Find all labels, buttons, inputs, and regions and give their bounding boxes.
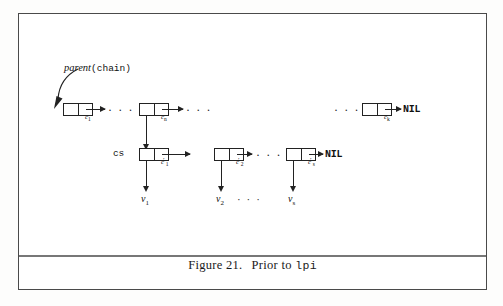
chain-node-ck-divider [377,104,378,115]
chain-ellipsis-3: · · · [334,103,360,118]
chain-arrow-c1-to-next [86,109,105,110]
caption-text: Prior to [252,258,292,272]
cs-node-cs-prime-divider [301,149,302,160]
parent-annotation-mono: (chain) [91,63,131,74]
cs-node-c2-prime-divider [229,149,230,160]
cs-node-c1-prime-label: c′1 [161,158,168,167]
cs-ellipsis-1: · · · [256,148,282,163]
value-label-v2: v2 [216,193,224,207]
chain-to-cs-down-arrow [146,116,147,145]
caption-code-lpi: lpi [295,259,317,272]
cs-node-c1-value-arrow [146,161,147,187]
cs-label: cs [113,148,124,159]
cs-arrow-c2-to-next [237,154,252,155]
cs-node-cs-prime-label: c′s [308,158,315,167]
figure-caption: Figure 21.Prior to lpi [19,258,486,273]
chain-arrow-cn-to-next [162,109,183,110]
cs-nil-terminator: NIL [325,149,342,160]
cs-node-c1-prime-divider [154,149,155,160]
caption-figure-number: Figure 21. [188,258,242,272]
chain-node-ck-label: ck [384,113,390,122]
value-label-v1: v1 [141,193,149,207]
chain-node-cn-divider [154,104,155,115]
cs-node-cs-value-arrow [293,161,294,187]
cs-node-c2-prime-label: c′2 [236,158,243,167]
cs-arrow-c1-to-next [162,154,190,155]
cs-arrow-cs-to-nil [309,154,323,155]
chain-arrow-ck-to-nil [385,109,401,110]
chain-ellipsis-1: · · · [108,103,134,118]
chain-ellipsis-2: · · · [186,103,212,118]
value-ellipsis-1: · · · [237,193,262,205]
caption-separator-rule [19,255,486,257]
chain-node-c1-label: c1 [85,113,91,122]
chain-nil-terminator: NIL [403,104,420,115]
chain-node-cn-label: cn [161,113,167,122]
chain-node-c1-divider [78,104,79,115]
value-label-vs: vs [288,193,295,207]
cs-node-c2-value-arrow [221,161,222,187]
